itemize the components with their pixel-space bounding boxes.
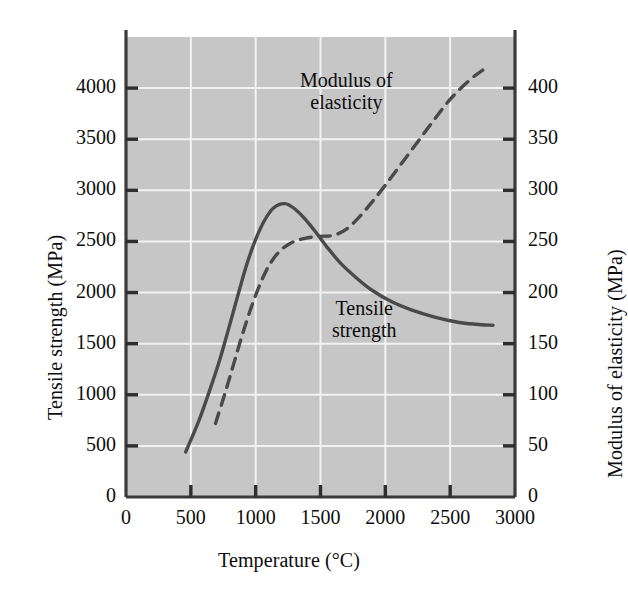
- annotation-line: strength: [332, 319, 396, 341]
- y-right-tick-label-0: 0: [528, 484, 588, 507]
- y-left-tick-label-1: 500: [48, 433, 116, 456]
- y-left-tick-label-5: 2500: [48, 228, 116, 251]
- y-left-tick-label-8: 4000: [48, 75, 116, 98]
- y-right-tick-label-7: 350: [528, 126, 588, 149]
- x-tick-label-6: 3000: [475, 506, 555, 529]
- y-right-tick-label-2: 100: [528, 382, 588, 405]
- annotation-line: Modulus of: [300, 69, 393, 91]
- y-right-tick-label-3: 150: [528, 331, 588, 354]
- y-left-tick-label-2: 1000: [48, 382, 116, 405]
- y-axis-right-title: Modulus of elasticity (MPa): [604, 249, 627, 478]
- annotation-line: Tensile: [335, 297, 392, 319]
- y-right-tick-label-4: 200: [528, 280, 588, 303]
- y-left-tick-label-4: 2000: [48, 280, 116, 303]
- x-axis-title: Temperature (°C): [218, 549, 360, 572]
- y-left-tick-label-7: 3500: [48, 126, 116, 149]
- y-right-tick-label-6: 300: [528, 177, 588, 200]
- y-right-tick-label-5: 250: [528, 228, 588, 251]
- figure-container: Tensile strength (MPa) Modulus of elasti…: [0, 0, 628, 608]
- tensile-strength-annotation: Tensilestrength: [332, 297, 396, 342]
- y-left-tick-label-3: 1500: [48, 331, 116, 354]
- modulus-of-elasticity-annotation: Modulus ofelasticity: [300, 69, 393, 114]
- y-left-tick-label-6: 3000: [48, 177, 116, 200]
- y-right-tick-label-1: 50: [528, 433, 588, 456]
- y-left-tick-label-0: 0: [48, 484, 116, 507]
- y-right-tick-label-8: 400: [528, 75, 588, 98]
- annotation-line: elasticity: [310, 91, 382, 113]
